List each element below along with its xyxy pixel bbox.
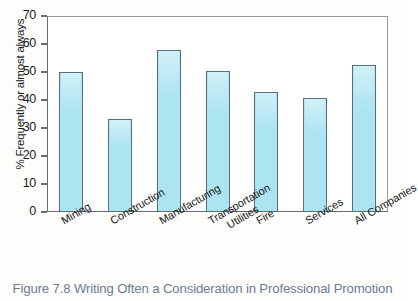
bar: [108, 119, 132, 212]
y-tick-label: 50: [23, 64, 36, 78]
x-axis-labels: MiningConstructionManufacturingTransport…: [47, 212, 388, 272]
y-tick-label: 40: [23, 92, 36, 106]
y-tick-label: 30: [23, 120, 36, 134]
figure-caption: Figure 7.8 Writing Often a Consideration…: [0, 281, 405, 296]
bar: [352, 65, 376, 212]
bar: [59, 72, 83, 212]
y-tick-label: 20: [23, 148, 36, 162]
y-tick-label: 70: [23, 8, 36, 22]
y-tick-label: 0: [29, 204, 36, 218]
bar-chart: % Frequently or almost always 0102030405…: [0, 0, 405, 272]
bar: [303, 98, 327, 212]
y-tick-label: 60: [23, 36, 36, 50]
y-tick-label: 10: [23, 176, 36, 190]
bars-layer: [47, 16, 388, 212]
